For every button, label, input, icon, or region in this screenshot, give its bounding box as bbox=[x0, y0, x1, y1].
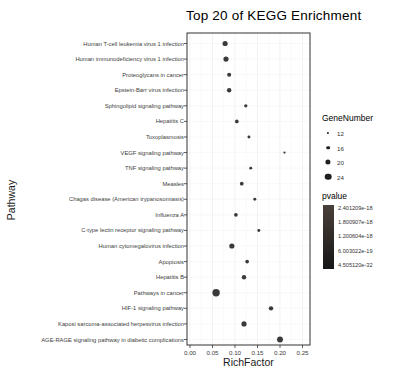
data-point bbox=[229, 243, 234, 248]
pathway-label: HIF-1 signaling pathway bbox=[122, 305, 184, 311]
data-point bbox=[235, 120, 239, 124]
data-point bbox=[253, 198, 256, 201]
data-point bbox=[249, 167, 252, 170]
pathway-label: Sphingolipid signaling pathway bbox=[105, 103, 184, 109]
legend-size-dot bbox=[326, 146, 330, 150]
pathway-label: Apoptosis bbox=[159, 259, 184, 265]
pathway-label: Hepatitis C bbox=[156, 118, 184, 124]
legend-size-label: 16 bbox=[337, 144, 344, 151]
data-point bbox=[227, 88, 231, 92]
x-tick-label: 0.15 bbox=[251, 349, 263, 356]
legend-size-label: 20 bbox=[337, 159, 344, 166]
pathway-label: Influenza A bbox=[155, 212, 184, 218]
legend-size-label: 24 bbox=[337, 173, 344, 180]
pathway-label: Human immunodeficiency virus 1 infection bbox=[75, 56, 184, 62]
pathway-label: Pathways in cancer bbox=[134, 290, 184, 296]
x-tick-label: 0.25 bbox=[296, 349, 308, 356]
pvalue-tick-label: 2.401209e-18 bbox=[338, 205, 373, 211]
legend-size-label: 12 bbox=[337, 130, 344, 137]
data-point bbox=[242, 275, 246, 279]
pvalue-tick-label: 4.505120e-32 bbox=[338, 262, 373, 268]
data-point bbox=[212, 289, 219, 296]
pathway-label: Human T-cell leukemia virus 1 infection bbox=[83, 41, 184, 47]
data-point bbox=[223, 56, 228, 61]
x-tick-label: 0.10 bbox=[229, 349, 241, 356]
data-point bbox=[269, 306, 273, 310]
pvalue-tick-label: 1.200604e-18 bbox=[338, 233, 373, 239]
legend-genenumber-title: GeneNumber bbox=[322, 113, 373, 123]
pathway-label: Kaposi sarcoma-associated herpesvirus in… bbox=[58, 321, 184, 327]
data-point bbox=[234, 213, 238, 217]
pathway-label: TNF signaling pathway bbox=[125, 165, 184, 171]
data-point bbox=[247, 136, 250, 139]
legend-pvalue-title: pvalue bbox=[322, 191, 347, 201]
data-point bbox=[223, 41, 228, 46]
pathway-label: Measles bbox=[162, 181, 184, 187]
pvalue-tick-label: 6.003022e-19 bbox=[338, 248, 373, 254]
legend-size-dot bbox=[325, 173, 332, 180]
data-point bbox=[283, 151, 285, 153]
kegg-enrichment-figure: Top 20 of KEGG Enrichment Pathway Human … bbox=[0, 0, 402, 389]
data-point bbox=[245, 260, 249, 264]
pathway-label: Proteoglycans in cancer bbox=[122, 72, 184, 78]
data-point bbox=[227, 73, 231, 77]
x-tick-label: 0.20 bbox=[274, 349, 286, 356]
pathway-label: Hepatitis B bbox=[156, 274, 184, 280]
data-point bbox=[257, 229, 260, 232]
pathway-label: Chagas disease (American trypanosomiasis… bbox=[69, 196, 184, 202]
x-tick-label: 0.05 bbox=[206, 349, 218, 356]
data-point bbox=[240, 182, 244, 186]
data-point bbox=[244, 104, 247, 107]
data-point bbox=[277, 337, 283, 343]
pvalue-colorbar bbox=[323, 205, 334, 269]
pathway-label: C-type lectin receptor signaling pathway bbox=[81, 227, 184, 233]
pvalue-tick-label: 1.800907e-18 bbox=[338, 219, 373, 225]
x-tick-label: 0.00 bbox=[184, 349, 196, 356]
pathway-label: AGE-RAGE signaling pathway in diabetic c… bbox=[41, 337, 184, 343]
x-axis-title: RichFactor bbox=[187, 356, 310, 368]
pathway-label: Human cytomegalovirus infection bbox=[99, 243, 184, 249]
pathway-label: Epstein-Barr virus infection bbox=[115, 87, 184, 93]
pathway-label: Toxoplasmosis bbox=[146, 134, 184, 140]
pathway-label: VEGF signaling pathway bbox=[121, 150, 184, 156]
data-point bbox=[241, 321, 246, 326]
